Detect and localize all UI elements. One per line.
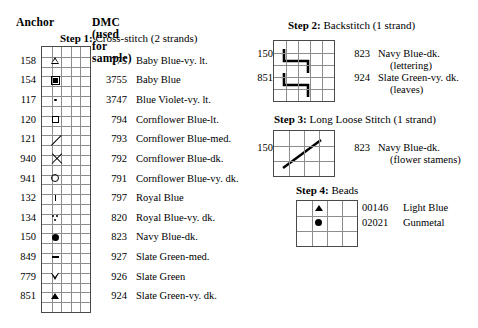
dmc-color-name: Blue Violet-vy. lt. bbox=[136, 94, 211, 105]
grid-line bbox=[42, 106, 90, 107]
grid-line bbox=[42, 126, 90, 127]
slash-icon bbox=[51, 134, 61, 145]
dot-small-icon bbox=[54, 99, 57, 102]
grid-line bbox=[42, 263, 90, 264]
dmc-number: 924 bbox=[340, 72, 370, 83]
step1-label: Step 1: bbox=[60, 32, 93, 44]
step2-title: Backstitch (1 strand) bbox=[323, 19, 415, 31]
grid-line bbox=[310, 41, 311, 101]
stitch-symbol-cell bbox=[51, 56, 61, 66]
grid-line bbox=[304, 131, 305, 176]
grid-line bbox=[342, 201, 343, 246]
anchor-number: 121 bbox=[8, 133, 36, 144]
dmc-number: 775 bbox=[97, 55, 127, 66]
grid-line bbox=[286, 41, 287, 101]
square-open-icon bbox=[52, 116, 59, 123]
dmc-number: 823 bbox=[340, 48, 370, 59]
grid-line bbox=[297, 216, 357, 217]
grid-line bbox=[274, 89, 334, 90]
grid-line bbox=[274, 146, 334, 147]
dmc-color-name: Royal Blue bbox=[136, 192, 184, 203]
stitch-symbol-cell bbox=[51, 291, 61, 301]
stitch-symbol-cell bbox=[51, 232, 61, 242]
cross-stitch-symbol-grid bbox=[41, 46, 91, 313]
grid-line bbox=[42, 292, 90, 293]
grid-line bbox=[42, 273, 90, 274]
stitch-symbol-cell bbox=[51, 213, 61, 223]
square-filled-icon bbox=[53, 78, 58, 83]
grid-line bbox=[42, 76, 90, 77]
stitch-symbol-cell bbox=[51, 134, 61, 144]
step4-label: Step 4: bbox=[296, 184, 329, 196]
dot-large-icon bbox=[315, 219, 322, 226]
dmc-color-name: Navy Blue-dk. bbox=[378, 48, 440, 59]
anchor-number: 120 bbox=[8, 114, 36, 125]
dmc-color-name: Royal Blue-vy. dk. bbox=[136, 212, 215, 223]
bead-color-name: Gunmetal bbox=[403, 217, 444, 228]
dmc-color-name: Slate Green-vy. dk. bbox=[136, 290, 217, 301]
step2-label: Step 2: bbox=[288, 19, 321, 31]
long-stitch-symbol-grid bbox=[273, 130, 335, 177]
usage-note: (flower stamens) bbox=[390, 154, 461, 165]
grid-line bbox=[42, 175, 90, 176]
dmc-number: 791 bbox=[97, 173, 127, 184]
vertical-tick-icon bbox=[55, 195, 56, 201]
backstitch-path-icon bbox=[274, 41, 334, 101]
grid-line bbox=[42, 184, 90, 185]
grid-line bbox=[42, 116, 90, 117]
dmc-number: 794 bbox=[97, 114, 127, 125]
dmc-color-name: Baby Blue bbox=[136, 74, 181, 85]
grid-line bbox=[42, 204, 90, 205]
triangle-up-filled-icon bbox=[51, 293, 59, 299]
anchor-column-header: Anchor bbox=[16, 16, 54, 28]
dmc-number: 823 bbox=[97, 231, 127, 242]
stitch-symbol-cell bbox=[51, 95, 61, 105]
step3-heading: Step 3: Long Loose Stitch (1 strand) bbox=[274, 113, 436, 125]
step3-title: Long Loose Stitch (1 strand) bbox=[309, 113, 435, 125]
triangle-up-filled-icon bbox=[315, 205, 323, 211]
bead-symbol-cell bbox=[311, 215, 326, 230]
grid-line bbox=[42, 224, 90, 225]
stitch-symbol-cell bbox=[51, 193, 61, 203]
dmc-color-name: Navy Blue-dk. bbox=[378, 142, 440, 153]
grid-line bbox=[274, 65, 334, 66]
anchor-number: 150 bbox=[245, 48, 273, 59]
cross-x-icon bbox=[51, 153, 61, 164]
triangle-down-open-icon bbox=[51, 273, 59, 280]
dmc-number: 3747 bbox=[97, 94, 127, 105]
dmc-number: 820 bbox=[97, 212, 127, 223]
grid-line bbox=[274, 161, 334, 162]
anchor-number: 150 bbox=[8, 231, 36, 242]
anchor-number: 851 bbox=[245, 72, 273, 83]
grid-line bbox=[42, 67, 90, 68]
step2-heading: Step 2: Backstitch (1 strand) bbox=[288, 19, 415, 31]
dmc-number: 792 bbox=[97, 153, 127, 164]
horizontal-bar-icon bbox=[52, 256, 59, 257]
grid-line bbox=[42, 155, 90, 156]
anchor-number: 132 bbox=[8, 192, 36, 203]
triangle-up-open-icon bbox=[51, 57, 59, 64]
stitch-symbol-cell bbox=[51, 115, 61, 125]
anchor-number: 134 bbox=[8, 212, 36, 223]
grid-line bbox=[42, 57, 90, 58]
stitch-symbol-cell bbox=[51, 252, 61, 262]
step3-label: Step 3: bbox=[274, 113, 307, 125]
grid-line bbox=[42, 86, 90, 87]
step1-heading: Step 1: Cross-stitch (2 strands) bbox=[60, 32, 198, 44]
dmc-number: 823 bbox=[340, 142, 370, 153]
dmc-color-name: Slate Green-vy. dk. bbox=[378, 72, 459, 83]
anchor-number: 158 bbox=[8, 55, 36, 66]
grid-line bbox=[319, 131, 320, 176]
grid-line bbox=[327, 201, 328, 246]
bead-color-name: Light Blue bbox=[403, 202, 448, 213]
dmc-number: 926 bbox=[97, 271, 127, 282]
usage-note: (lettering) bbox=[390, 60, 432, 71]
grid-line bbox=[42, 96, 90, 97]
step1-title: Cross-stitch (2 strands) bbox=[95, 32, 197, 44]
stitch-symbol-cell bbox=[51, 75, 61, 85]
bead-symbol-grid bbox=[296, 200, 358, 247]
dmc-color-name: Cornflower Blue-med. bbox=[136, 133, 231, 144]
anchor-number: 779 bbox=[8, 271, 36, 282]
anchor-number: 154 bbox=[8, 74, 36, 85]
dmc-number: 3755 bbox=[97, 74, 127, 85]
